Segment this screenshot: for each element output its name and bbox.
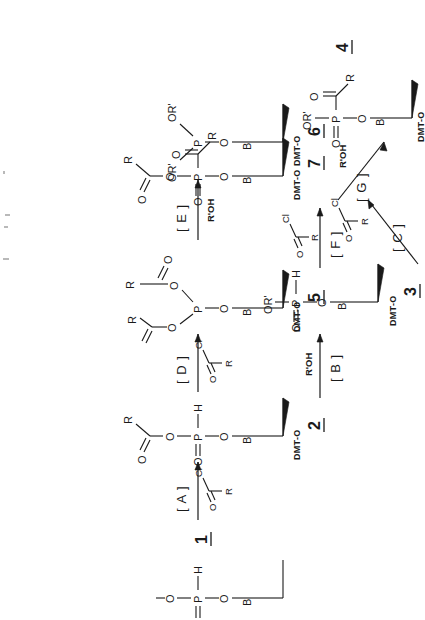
structure-1-p-h: H	[192, 566, 204, 574]
arrow-E-reagent-text: R'OH	[205, 198, 216, 222]
arrow-C-carbonyl-o: O	[343, 235, 354, 242]
structure-7-o-link: O	[218, 172, 230, 181]
structure-7-p: P	[192, 174, 204, 181]
structure-7-p-double-o: O	[192, 197, 204, 206]
arrow-C-label: [ C ]	[390, 223, 405, 252]
structure-3-number: 3	[402, 287, 419, 296]
arrow-F-reagent: O Cl R	[280, 214, 320, 258]
arrow-A-carbonyl-o: O	[207, 504, 218, 511]
scheme-rotated-canvas: B O P O H O 1 [ A ]	[0, 0, 425, 620]
structure-7-r-a: R	[122, 156, 134, 164]
structure-5-o-link: O	[218, 304, 230, 313]
structure-2-r: R	[122, 416, 134, 424]
structure-2-base-label: B	[241, 437, 253, 444]
structure-2-p-double-o: O	[192, 457, 204, 466]
arrow-D-chloride: Cl	[193, 340, 204, 349]
structure-5-r-b: R	[124, 281, 136, 289]
arrow-F-carbonyl-o: O	[294, 251, 305, 258]
arrow-F-r: R	[309, 234, 320, 241]
structure-3-dmt: DMT-O	[388, 296, 398, 327]
arrow-A-label: [ A ]	[174, 485, 189, 512]
structure-5-base-label: B	[241, 309, 253, 316]
arrow-B-label: [ B ]	[328, 354, 343, 382]
structure-2-carbonyl-o: O	[136, 455, 148, 464]
arrow-E-label: [ E ]	[174, 204, 189, 232]
structure-1-base-label: B	[241, 599, 253, 606]
structure-5-p: P	[192, 306, 204, 313]
arrow-C-r: R	[359, 218, 370, 225]
arrow-G-reagent-text: R'OH	[337, 144, 348, 168]
structure-3-base-label: B	[336, 303, 348, 310]
structure-7-number: 7	[306, 159, 323, 168]
structure-1-number: 1	[193, 535, 210, 544]
structure-6-dmt: DMT-O	[292, 136, 302, 167]
arrow-D: [ D ] O Cl R	[174, 334, 234, 392]
structure-3-p-h: H	[290, 270, 302, 278]
arrow-B-reagent-text: R'OH	[303, 352, 314, 376]
structure-4-base-label: B	[374, 119, 386, 126]
structure-3-or-prime: OR'	[262, 295, 274, 314]
arrow-F-label: [ F ]	[328, 231, 343, 258]
arrow-D-reagent: O Cl R	[193, 340, 234, 383]
structure-2-number: 2	[306, 421, 323, 430]
structure-4-number: 4	[334, 43, 351, 52]
arrow-F: [ F ] O Cl R	[280, 208, 343, 268]
structure-6-o-link: O	[218, 138, 230, 147]
arrow-G-label: [ G ]	[354, 172, 369, 202]
structure-4-carbonyl-o: O	[308, 92, 320, 101]
structure-5-carbonyl-o-b: O	[162, 255, 174, 264]
structure-7-dmt: DMT-O	[292, 170, 302, 201]
structure-4-dmt: DMT-O	[416, 112, 425, 143]
structure-5-dmt: DMT-O	[292, 302, 302, 333]
structure-7-r-b: R	[206, 132, 218, 140]
arrow-D-label: [ D ]	[174, 355, 189, 384]
structure-5-r-a: R	[126, 316, 138, 324]
arrow-A: [ A ] O Cl R	[174, 462, 234, 520]
structure-4-p-double-o: O	[330, 139, 342, 148]
structure-7-carbonyl-o-a: O	[136, 195, 148, 204]
scheme-page: B O P O H O 1 [ A ]	[0, 0, 425, 620]
structure-7-carbonyl-o-b: O	[170, 150, 182, 159]
structure-2-p: P	[192, 434, 204, 441]
structure-7-o-ester: O	[164, 172, 176, 181]
arrow-D-carbonyl-o: O	[207, 376, 218, 383]
arrow-A-chloride: Cl	[193, 468, 204, 477]
structure-5-o-ester-b: O	[168, 281, 180, 290]
structure-1: B O P O H O 1	[156, 532, 283, 620]
structure-1-o-top: O	[164, 594, 176, 603]
structure-2-o-link: O	[218, 432, 230, 441]
arrow-E: [ E ] R'OH	[174, 180, 216, 240]
structure-5-o-ester-a: O	[166, 323, 178, 332]
structure-1-o-link: O	[218, 594, 230, 603]
arrow-A-reagent: O Cl R	[193, 468, 234, 511]
reaction-scheme-svg: B O P O H O 1 [ A ]	[0, 0, 425, 620]
structure-2: B DMT-O O P O H O O R 2	[122, 398, 324, 466]
structure-4-o-link: O	[356, 114, 368, 123]
structure-5-number: 5	[306, 293, 323, 302]
structure-2-o-ester: O	[164, 432, 176, 441]
structure-6-base-label: B	[241, 143, 253, 150]
arrow-F-chloride: Cl	[280, 214, 291, 223]
structure-1-p: P	[192, 596, 204, 603]
structure-4-or-prime: OR'	[301, 111, 313, 130]
arrow-G: [ G ] R'OH	[337, 142, 387, 202]
structure-4-p: P	[330, 116, 342, 123]
structure-6-p: P	[192, 140, 204, 147]
structure-6-or-prime-b: OR'	[166, 103, 178, 122]
arrow-B: R'OH [ B ]	[303, 334, 343, 398]
arrow-D-r: R	[223, 360, 234, 367]
structure-2-dmt: DMT-O	[292, 430, 302, 461]
structure-4-r: R	[344, 74, 356, 82]
scan-artifacts	[3, 171, 10, 260]
structure-2-p-h: H	[192, 404, 204, 412]
arrow-A-r: R	[223, 488, 234, 495]
structure-7-base-label: B	[241, 177, 253, 184]
